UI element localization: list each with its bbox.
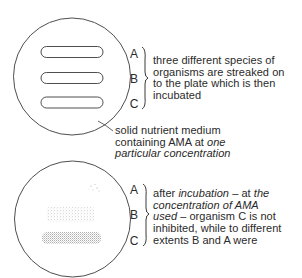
streak-b-outline: [41, 73, 103, 84]
brace-before: [142, 47, 148, 109]
streak-c-outline: [41, 97, 103, 108]
plate-after-description: after incubation – at the concentration …: [153, 188, 281, 247]
petri-plate-before: [14, 18, 149, 135]
desc-emphasis: used: [153, 210, 177, 222]
medium-note: solid nutrient medium containing AMA at …: [115, 125, 231, 160]
streak-a-outline: [41, 47, 103, 58]
streak-b-growth: [47, 207, 94, 222]
label-c-after: C: [129, 235, 139, 247]
label-a-after: A: [129, 184, 139, 196]
label-b-after: B: [129, 209, 139, 221]
plate-before-description: three different species of organisms are…: [153, 55, 284, 102]
label-c-before: C: [129, 98, 139, 110]
desc-emphasis: the: [254, 187, 269, 199]
label-a-before: A: [129, 48, 139, 60]
streak-c-growth: [42, 232, 101, 244]
label-b-before: B: [129, 73, 139, 85]
desc-line: incubated: [153, 90, 284, 102]
desc-line: extents B and A were: [153, 235, 281, 247]
streak-a-growth: [89, 184, 100, 191]
desc-emphasis: incubation: [178, 187, 229, 199]
medium-note-text: containing AMA at: [115, 136, 207, 148]
desc-text: after: [153, 187, 178, 199]
desc-text: – at: [229, 187, 254, 199]
medium-note-line: particular concentration: [115, 148, 231, 160]
medium-note-emphasis: one: [207, 136, 226, 148]
medium-leader-line: [98, 121, 113, 131]
desc-line: after incubation – at the: [153, 188, 281, 200]
desc-line: three different species of: [153, 55, 284, 67]
brace-after: [143, 184, 149, 246]
desc-text: – organism C is not: [177, 210, 276, 222]
